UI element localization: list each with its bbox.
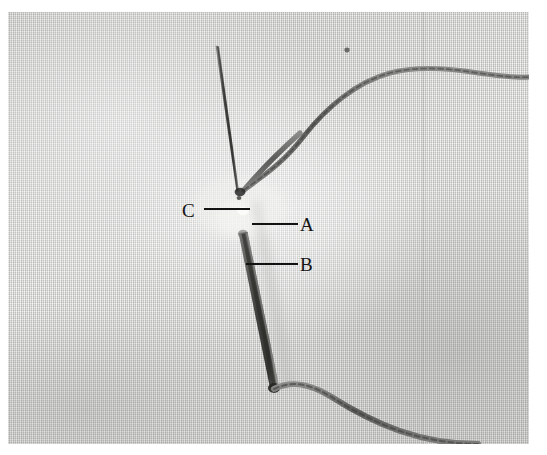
fabric-speck (344, 48, 349, 53)
thread-lower-arc-twist (274, 384, 478, 444)
annotation-label-b: B (300, 255, 313, 274)
thread-lower-arc (274, 384, 478, 444)
thread-upper-arc (244, 68, 529, 190)
photograph-plate: C A B (8, 12, 529, 444)
thread-upper-arc-twist (244, 68, 529, 190)
leader-line-c (204, 208, 250, 210)
leader-line-a (252, 223, 298, 225)
annotation-label-a: A (300, 215, 314, 234)
figure-root: C A B (0, 0, 547, 455)
annotation-label-c: C (182, 201, 195, 220)
needle-eye-knot (235, 188, 246, 196)
leader-line-b (246, 263, 298, 265)
puncture-point-c (237, 196, 242, 200)
needle-upper-core-shadow (217, 46, 238, 191)
needle-and-thread-artwork (8, 12, 529, 444)
